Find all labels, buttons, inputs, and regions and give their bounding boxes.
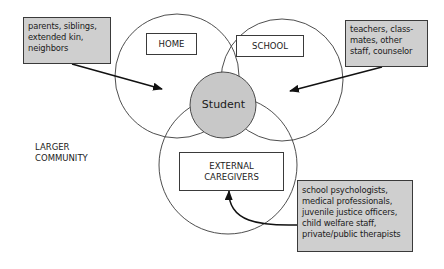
larger-community-label: LARGER COMMUNITY — [35, 142, 88, 164]
community-line1: LARGER — [35, 142, 88, 153]
callout-line: mates, other — [350, 35, 423, 46]
home-arrow — [72, 64, 162, 89]
school-arrow — [290, 67, 382, 91]
callout-line: private/public therapists — [302, 229, 408, 240]
callout-line: school psychologists, — [302, 185, 408, 196]
school-label-box: SCHOOL — [236, 35, 304, 57]
home-people-callout: parents, siblings, extended kin, neighbo… — [23, 17, 111, 64]
callout-line: staff, counselor — [350, 46, 423, 57]
external-label-line1: EXTERNAL — [209, 161, 253, 172]
callout-line: medical professionals, — [302, 196, 408, 207]
home-label-box: HOME — [146, 33, 197, 55]
community-line2: COMMUNITY — [35, 153, 88, 164]
external-people-callout: school psychologists, medical profession… — [297, 180, 413, 252]
school-people-callout: teachers, class- mates, other staff, cou… — [345, 20, 428, 67]
student-label: Student — [190, 98, 257, 111]
callout-line: juvenile justice officers, — [302, 207, 408, 218]
school-label: SCHOOL — [252, 41, 288, 51]
external-label-line2: CAREGIVERS — [204, 172, 259, 183]
callout-line: neighbors — [28, 43, 106, 54]
home-label: HOME — [159, 39, 185, 49]
callout-line: teachers, class- — [350, 24, 423, 35]
callout-line: extended kin, — [28, 32, 106, 43]
callout-line: child welfare staff, — [302, 218, 408, 229]
callout-line: parents, siblings, — [28, 21, 106, 32]
external-caregivers-label-box: EXTERNAL CAREGIVERS — [179, 152, 284, 191]
